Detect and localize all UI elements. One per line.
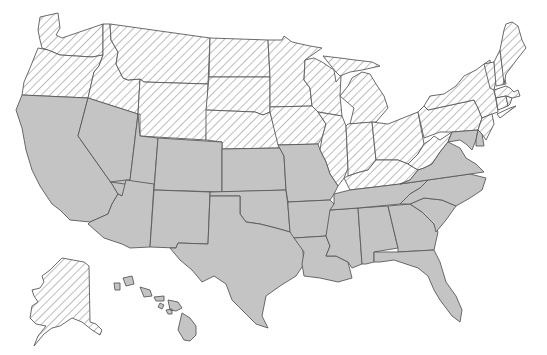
- state-nm: New Mexico: [150, 190, 210, 248]
- state-ak: Alaska: [30, 258, 102, 346]
- state-wy: Wyoming: [138, 79, 208, 140]
- state-hi: Hawaii: [114, 276, 196, 341]
- state-sd: South Dakota: [206, 77, 270, 115]
- state-mt: Montana: [110, 24, 210, 84]
- us-states-map: WashingtonOregonIdahoMontanaWyomingNorth…: [0, 0, 547, 355]
- state-nd: North Dakota: [209, 38, 270, 77]
- state-ks: Kansas: [222, 148, 286, 192]
- state-co: Colorado: [154, 138, 222, 192]
- state-me: Maine: [500, 22, 526, 84]
- state-fl: Florida: [374, 250, 462, 322]
